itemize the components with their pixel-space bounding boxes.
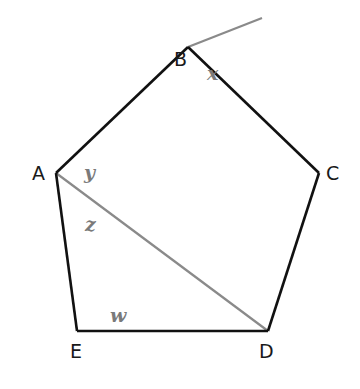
vertex-label-e: E [70,340,82,362]
vertex-label-a: A [32,162,45,184]
edge-ea [56,173,77,331]
angle-label-y: y [83,161,97,183]
edge-cd [268,173,319,331]
vertex-label-b: B [174,48,187,70]
angle-label-z: z [84,213,97,235]
pentagon-diagram: B A C D E x y z w [0,0,360,389]
angle-label-w: w [110,304,127,326]
angle-label-x: x [206,62,219,84]
edge-ab [56,47,188,173]
extension-line-ab [188,18,262,47]
vertex-label-c: C [326,162,339,184]
vertex-label-d: D [259,340,274,362]
diagonal-ad [56,173,268,331]
